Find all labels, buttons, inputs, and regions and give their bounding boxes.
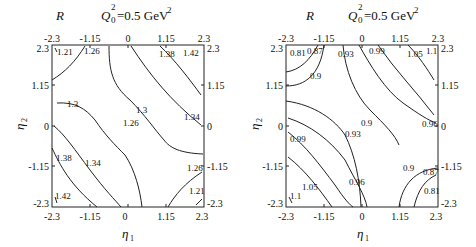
svg-text:=0.5 GeV: =0.5 GeV xyxy=(117,8,169,23)
right-ytick: 1.15 xyxy=(441,80,459,91)
svg-text:1.42: 1.42 xyxy=(55,191,71,201)
right-bottom-xtick: 1.15 xyxy=(391,211,409,222)
left-top-xtick: 0 xyxy=(126,33,131,44)
left-bottom-xtick: -2.3 xyxy=(44,211,60,222)
right-ytick: -1.15 xyxy=(441,161,462,172)
svg-text:0.96: 0.96 xyxy=(422,119,438,129)
svg-text:0.81: 0.81 xyxy=(424,186,440,196)
right-ytick: -2.3 xyxy=(441,198,457,209)
right-bottom-xtick: 2.3 xyxy=(430,211,443,222)
svg-text:0.9: 0.9 xyxy=(310,71,322,81)
right-left-ytick: -1.15 xyxy=(262,161,283,172)
right-contour-labels: 0.81 0.87 0.93 0.99 1.05 1.1 0.9 0.9 0.9… xyxy=(290,46,440,201)
left-right-ytick: -1.15 xyxy=(207,161,228,172)
left-bottom-xtick: 0 xyxy=(123,211,128,222)
left-right-ytick: 1.15 xyxy=(207,80,225,91)
svg-text:=0.5 GeV: =0.5 GeV xyxy=(364,8,416,23)
left-title-r: R xyxy=(55,8,64,23)
svg-text:1.3: 1.3 xyxy=(136,105,148,115)
svg-text:η: η xyxy=(122,226,128,241)
svg-text:0.99: 0.99 xyxy=(369,46,385,56)
right-panel: R Q 2 0 =0.5 GeV 2 -2.3 -1.15 0 1.15 2.3… xyxy=(247,2,462,243)
left-ytick: 1.15 xyxy=(32,80,50,91)
svg-text:0.9: 0.9 xyxy=(361,118,373,128)
svg-text:1.26: 1.26 xyxy=(84,46,100,56)
svg-text:1.38: 1.38 xyxy=(56,153,72,163)
right-bottom-xtick: -1.15 xyxy=(314,211,335,222)
left-bottom-xtick: 1.15 xyxy=(157,211,175,222)
left-ytick: -1.15 xyxy=(28,161,49,172)
right-bottom-xtick: 0 xyxy=(360,211,365,222)
svg-text:1.26: 1.26 xyxy=(123,118,139,128)
left-top-xtick: 1.15 xyxy=(157,33,175,44)
svg-text:1: 1 xyxy=(130,234,134,243)
left-bottom-xtick: 2.3 xyxy=(196,211,209,222)
right-bottom-xtick: -2.3 xyxy=(278,211,294,222)
right-left-ytick: 2.3 xyxy=(271,43,284,54)
right-xlabel: η 1 xyxy=(357,226,369,243)
svg-text:η: η xyxy=(247,124,262,130)
svg-text:2: 2 xyxy=(111,2,116,12)
right-left-ytick: 0 xyxy=(278,121,283,132)
svg-text:1.1: 1.1 xyxy=(426,46,437,56)
svg-text:1.38: 1.38 xyxy=(159,49,175,59)
svg-text:2: 2 xyxy=(414,5,419,15)
svg-text:0.93: 0.93 xyxy=(338,49,354,59)
right-ytick: 0 xyxy=(441,121,446,132)
svg-text:1.05: 1.05 xyxy=(407,49,423,59)
left-top-xtick: -1.15 xyxy=(80,33,101,44)
svg-text:0: 0 xyxy=(111,15,116,25)
left-right-ytick: 0 xyxy=(207,121,212,132)
svg-text:η: η xyxy=(357,226,363,241)
svg-text:1.34: 1.34 xyxy=(85,158,101,168)
svg-text:0.87: 0.87 xyxy=(307,46,323,56)
right-title-r: R xyxy=(305,8,314,23)
right-ylabel: η 2 xyxy=(247,118,264,130)
left-right-ytick: 2.3 xyxy=(207,43,220,54)
right-top-xtick: -1.15 xyxy=(314,33,335,44)
svg-text:2: 2 xyxy=(255,118,264,122)
left-xlabel: η 1 xyxy=(122,226,134,243)
left-ytick: 0 xyxy=(44,121,49,132)
svg-text:0.93: 0.93 xyxy=(345,129,361,139)
right-top-xtick: 1.15 xyxy=(391,33,409,44)
svg-text:0.96: 0.96 xyxy=(349,177,365,187)
svg-text:2: 2 xyxy=(358,2,363,12)
svg-text:0.99: 0.99 xyxy=(290,134,306,144)
svg-text:1.26: 1.26 xyxy=(187,163,203,173)
left-ytick: 2.3 xyxy=(37,43,50,54)
svg-text:Q: Q xyxy=(348,8,358,23)
svg-text:1.1: 1.1 xyxy=(290,191,301,201)
left-ytick: -2.3 xyxy=(33,198,49,209)
svg-text:1.3: 1.3 xyxy=(67,99,79,109)
svg-text:0.81: 0.81 xyxy=(290,48,306,58)
svg-text:1.34: 1.34 xyxy=(184,112,200,122)
svg-text:2: 2 xyxy=(20,118,29,122)
left-panel: R Q 2 0 =0.5 GeV 2 -2.3 -1.15 0 1.15 2.3… xyxy=(12,2,228,243)
right-left-ytick: 1.15 xyxy=(266,80,284,91)
left-bottom-xtick: -1.15 xyxy=(80,211,101,222)
right-top-xtick: 0 xyxy=(360,33,365,44)
svg-text:0.9: 0.9 xyxy=(403,163,415,173)
svg-text:0: 0 xyxy=(358,15,363,25)
svg-text:1: 1 xyxy=(365,234,369,243)
svg-text:η: η xyxy=(12,124,27,130)
right-title-q: Q 2 0 =0.5 GeV 2 xyxy=(348,2,419,25)
svg-text:Q: Q xyxy=(101,8,111,23)
right-ytick: 2.3 xyxy=(441,43,454,54)
svg-text:2: 2 xyxy=(167,5,172,15)
left-contour-labels: 1.21 1.26 1.38 1.42 1.3 1.3 1.26 1.34 1.… xyxy=(55,46,205,201)
svg-text:1.21: 1.21 xyxy=(189,186,205,196)
left-title-q: Q 2 0 =0.5 GeV 2 xyxy=(101,2,172,25)
figure: R Q 2 0 =0.5 GeV 2 -2.3 -1.15 0 1.15 2.3… xyxy=(0,0,476,247)
right-left-ytick: -2.3 xyxy=(267,198,283,209)
left-right-ytick: -2.3 xyxy=(207,198,223,209)
left-ylabel: η 2 xyxy=(12,118,29,130)
svg-text:1.05: 1.05 xyxy=(302,182,318,192)
svg-text:1.42: 1.42 xyxy=(183,48,199,58)
svg-text:0.87: 0.87 xyxy=(423,167,439,177)
svg-text:1.21: 1.21 xyxy=(57,47,73,57)
